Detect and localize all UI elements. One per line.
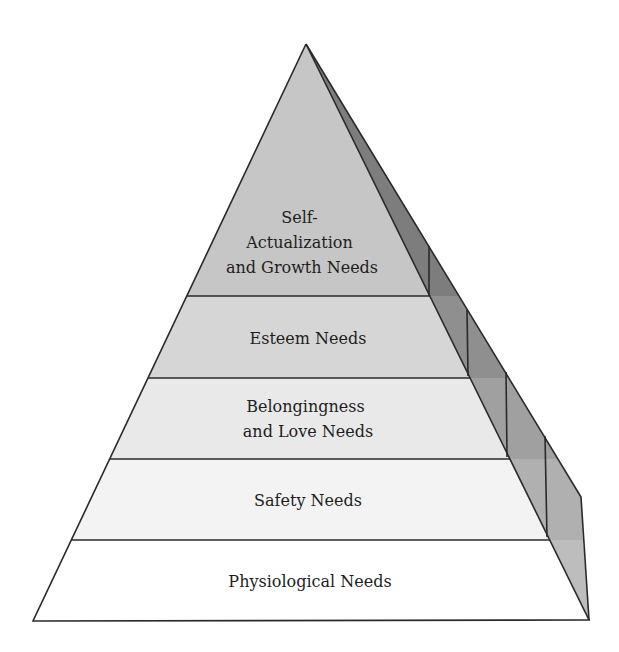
label-esteem: Esteem Needs <box>250 329 367 348</box>
hierarchy-of-needs-pyramid: Self- Actualization and Growth Needs Est… <box>0 0 619 652</box>
label-safety: Safety Needs <box>254 491 362 510</box>
band-belongingness <box>110 378 510 459</box>
label-physiological: Physiological Needs <box>228 572 391 591</box>
